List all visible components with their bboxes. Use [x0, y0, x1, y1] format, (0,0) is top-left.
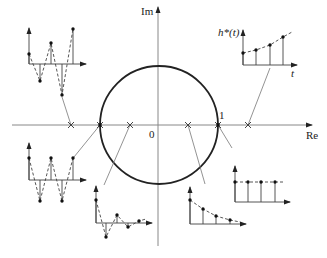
- response-y-label: h*(t): [218, 27, 239, 38]
- origin-label: 0: [149, 129, 155, 140]
- response-plot-decaying: [188, 187, 246, 224]
- response-plot-alt-constant: [27, 143, 86, 203]
- impulse-response-plots: [27, 27, 297, 238]
- unit-label: 1: [219, 110, 225, 121]
- response-x-label: t: [291, 68, 294, 79]
- connector-growing: [248, 68, 270, 125]
- z-plane-diagram: [0, 0, 327, 258]
- response-plot-growing: [241, 30, 297, 65]
- response-plot-constant: [233, 166, 290, 202]
- real-axis-label: Re: [306, 130, 318, 141]
- connector-alt-constant: [74, 125, 100, 157]
- response-plot-alt-decaying: [94, 186, 152, 239]
- imag-axis-label: Im: [141, 6, 153, 17]
- response-plot-alt-growing: [27, 27, 86, 96]
- complex-axes: [12, 7, 312, 246]
- connector-alt-growing: [62, 97, 71, 125]
- connector-lines: [62, 68, 270, 185]
- connector-constant: [218, 125, 232, 148]
